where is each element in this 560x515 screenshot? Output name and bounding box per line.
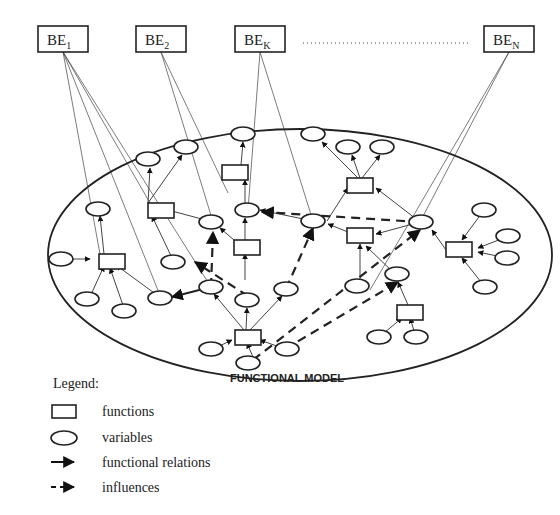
variable-node	[236, 356, 260, 370]
legend-rectangle-icon	[52, 405, 76, 418]
variable-node	[235, 293, 259, 307]
be-row: BE1 BE2 BEK BEN	[38, 26, 534, 52]
variable-node	[199, 280, 223, 294]
variable-node	[199, 342, 223, 356]
variable-node	[231, 127, 255, 141]
function-node	[347, 228, 373, 243]
variable-node	[199, 215, 223, 229]
variable-node	[404, 330, 428, 344]
be-box-1: BE1	[38, 26, 88, 52]
be-box-n: BEN	[484, 26, 534, 52]
variable-node	[86, 202, 110, 216]
function-node	[446, 242, 472, 257]
variable-node	[75, 292, 99, 306]
variable-node	[495, 251, 519, 265]
variable-node	[496, 229, 520, 243]
legend: Legend: functions variables functional r…	[51, 376, 210, 495]
function-node	[222, 165, 248, 180]
functions	[99, 165, 472, 345]
function-node	[235, 330, 261, 345]
functional-model-diagram: BE1 BE2 BEK BEN	[0, 0, 560, 515]
variable-node	[174, 140, 198, 154]
variable-node	[473, 280, 497, 294]
variable-node	[385, 267, 409, 281]
function-node	[99, 254, 125, 269]
variable-node	[336, 140, 360, 154]
legend-ellipse-icon	[51, 431, 77, 445]
variable-node	[409, 215, 433, 229]
legend-title: Legend:	[53, 376, 99, 391]
variable-node	[112, 304, 136, 318]
legend-label-variables: variables	[102, 430, 153, 445]
be-links	[63, 52, 509, 298]
be-box-2: BE2	[136, 26, 186, 52]
variable-node	[136, 152, 160, 166]
legend-label-functional-relations: functional relations	[102, 455, 210, 470]
legend-label-influences: influences	[102, 480, 160, 495]
variable-node	[367, 330, 391, 344]
functional-relations	[62, 142, 509, 357]
legend-label-functions: functions	[102, 404, 154, 419]
variable-node	[301, 214, 325, 228]
function-node	[148, 203, 174, 218]
variable-node	[301, 127, 325, 141]
variable-node	[161, 255, 185, 269]
variable-node	[274, 282, 298, 296]
variable-node	[49, 252, 73, 266]
variable-node	[235, 203, 259, 217]
variable-node	[370, 140, 394, 154]
function-node	[234, 240, 260, 255]
variable-node	[472, 203, 496, 217]
be-box-k: BEK	[235, 26, 285, 52]
function-node	[347, 178, 373, 193]
variable-node	[345, 279, 369, 293]
function-node	[397, 305, 423, 320]
model-label: FUNCTIONAL MODEL	[230, 372, 344, 384]
variable-node	[148, 291, 172, 305]
variable-node	[275, 342, 299, 356]
